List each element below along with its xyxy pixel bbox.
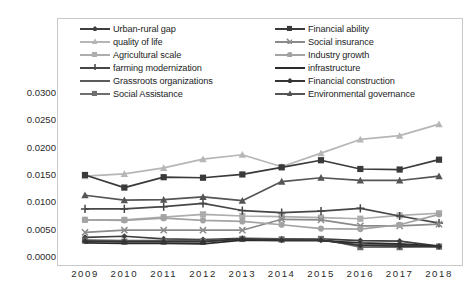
legend-label: quality of life	[113, 36, 163, 48]
series-environmental-governance	[81, 172, 442, 203]
chart-legend: Urban-rural gapquality of lifeAgricultur…	[60, 22, 460, 100]
legend-column-right: Financial abilitySocial insuranceIndustr…	[275, 22, 415, 100]
legend-marker-icon	[80, 36, 110, 48]
legend-label: Social insurance	[308, 36, 374, 48]
legend-marker-icon	[80, 23, 110, 35]
legend-marker-icon	[275, 36, 305, 48]
x-axis-tick-labels: 2009201020112012201320142015201620172018	[57, 266, 463, 288]
legend-marker-icon	[275, 88, 305, 100]
legend-item-farming-modernization[interactable]: farming modernization	[80, 61, 213, 74]
legend-label: infrastructure	[308, 62, 360, 74]
legend-item-financial-construction[interactable]: Financial construction	[275, 74, 415, 87]
legend-item-financial-ability[interactable]: Financial ability	[275, 22, 415, 35]
legend-item-grassroots-organizations[interactable]: Grassroots organizations	[80, 74, 213, 87]
legend-label: farming modernization	[113, 62, 202, 74]
legend-label: Social Assistance	[113, 88, 183, 100]
y-axis-tick: 0.0150	[4, 170, 56, 180]
legend-item-urban-rural-gap[interactable]: Urban-rural gap	[80, 22, 213, 35]
legend-item-social-insurance[interactable]: Social insurance	[275, 35, 415, 48]
x-axis-tick: 2018	[415, 268, 463, 279]
legend-item-infrastructure[interactable]: infrastructure	[275, 61, 415, 74]
legend-item-industry-growth[interactable]: Industry growth	[275, 48, 415, 61]
legend-label: Environmental governance	[308, 88, 415, 100]
y-axis-tick: 0.0250	[4, 115, 56, 125]
legend-label: Industry growth	[308, 49, 369, 61]
legend-item-environmental-governance[interactable]: Environmental governance	[275, 87, 415, 100]
legend-marker-icon	[275, 23, 305, 35]
legend-marker-icon	[80, 49, 110, 61]
legend-label: Urban-rural gap	[113, 23, 176, 35]
line-chart: 0.03000.02500.02000.01500.01000.00500.00…	[0, 0, 470, 297]
y-axis-tick: 0.0050	[4, 225, 56, 235]
legend-label: Financial construction	[308, 75, 395, 87]
y-axis-tick: 0.0000	[4, 252, 56, 262]
legend-marker-icon	[80, 62, 110, 74]
legend-item-agricultural-scale[interactable]: Agricultural scale	[80, 48, 213, 61]
legend-marker-icon	[80, 75, 110, 87]
legend-column-left: Urban-rural gapquality of lifeAgricultur…	[80, 22, 213, 100]
legend-marker-icon	[275, 49, 305, 61]
legend-marker-icon	[275, 62, 305, 74]
legend-marker-icon	[80, 88, 110, 100]
legend-marker-icon	[275, 75, 305, 87]
legend-label: Grassroots organizations	[113, 75, 213, 87]
series-financial-ability	[82, 157, 442, 191]
y-axis-tick: 0.0200	[4, 143, 56, 153]
legend-item-quality-of-life[interactable]: quality of life	[80, 35, 213, 48]
legend-label: Financial ability	[308, 23, 369, 35]
y-axis-tick: 0.0100	[4, 197, 56, 207]
legend-label: Agricultural scale	[113, 49, 181, 61]
y-axis-tick-labels: 0.03000.02500.02000.01500.01000.00500.00…	[0, 0, 56, 297]
y-axis-tick: 0.0300	[4, 88, 56, 98]
legend-item-social-assistance[interactable]: Social Assistance	[80, 87, 213, 100]
